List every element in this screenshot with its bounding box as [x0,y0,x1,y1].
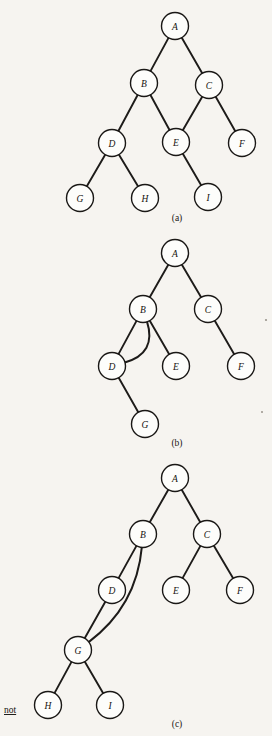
node-label-G: G [142,420,149,430]
edge-C-F [215,320,235,354]
node-label-A: A [171,22,178,32]
node-F: F [228,353,255,380]
node-H: H [35,692,62,719]
figure-canvas: ABCDEFGHI(a)ABCDEFG(b)ABCDEFGHI(c) [0,0,272,736]
node-label-F: F [236,586,243,596]
diagram-c: ABCDEFGHI(c) [35,465,254,731]
edge-D-H [119,154,139,187]
node-C: C [196,72,223,99]
node-A: A [162,13,189,40]
edge-B-E [150,320,170,354]
edge-C-F [215,96,235,131]
node-label-C: C [205,305,212,315]
edge-A-B [150,37,169,71]
node-label-C: C [204,530,211,540]
node-label-D: D [108,362,116,372]
edge-C-E [183,96,203,130]
edge-B-D-curve [124,321,149,363]
node-label-C: C [206,81,213,91]
node-B: B [131,70,158,97]
caption-c: (c) [172,719,183,730]
node-G: G [65,637,92,664]
edge-C-E [182,545,200,578]
node-F: F [227,577,254,604]
node-D: D [99,130,126,157]
node-E: E [163,577,190,604]
edge-A-B [149,489,168,522]
node-I: I [97,692,124,719]
node-label-H: H [44,701,53,711]
node-C: C [195,296,222,323]
diagram-b: ABCDEFG(b) [99,240,255,450]
node-B: B [130,521,157,548]
edge-B-D [118,94,138,131]
edge-G-H [54,661,72,693]
node-A: A [162,240,189,267]
node-label-A: A [171,474,178,484]
edge-B-D [118,320,137,354]
node-label-H: H [141,194,150,204]
node-label-E: E [172,362,179,372]
node-label-F: F [237,362,244,372]
node-label-G: G [75,646,82,656]
caption-b: (b) [171,438,182,449]
edge-B-E [150,94,170,130]
node-label-G: G [77,194,84,204]
node-D: D [99,353,126,380]
caption-a: (a) [172,213,183,224]
node-I: I [195,184,222,211]
node-C: C [194,521,221,548]
node-label-E: E [172,138,179,148]
node-label-B: B [141,79,147,89]
edge-A-C [181,37,202,73]
node-B: B [130,296,157,323]
edge-G-I [85,661,104,694]
node-H: H [132,185,159,212]
node-label-E: E [172,586,179,596]
node-G: G [67,185,94,212]
node-A: A [162,465,189,492]
figure-page: ABCDEFGHI(a)ABCDEFG(b)ABCDEFGHI(c) not [0,0,272,736]
edge-D-G [118,377,138,412]
node-label-A: A [171,249,178,259]
node-F: F [229,130,256,157]
edge-A-B [149,264,168,297]
edge-D-G [87,154,106,187]
edge-E-I [183,153,202,186]
node-label-B: B [140,530,146,540]
node-label-B: B [140,305,146,315]
node-label-D: D [108,139,116,149]
edge-D-G [84,601,105,638]
diagram-a: ABCDEFGHI(a) [67,13,256,225]
edge-A-C [182,264,202,298]
node-label-D: D [108,586,116,596]
node-E: E [163,129,190,156]
node-D: D [99,577,126,604]
edge-A-C [181,489,200,522]
node-G: G [132,411,159,438]
edge-C-F [214,545,234,579]
edge-B-D [118,545,136,578]
node-E: E [163,353,190,380]
node-label-F: F [238,139,245,149]
